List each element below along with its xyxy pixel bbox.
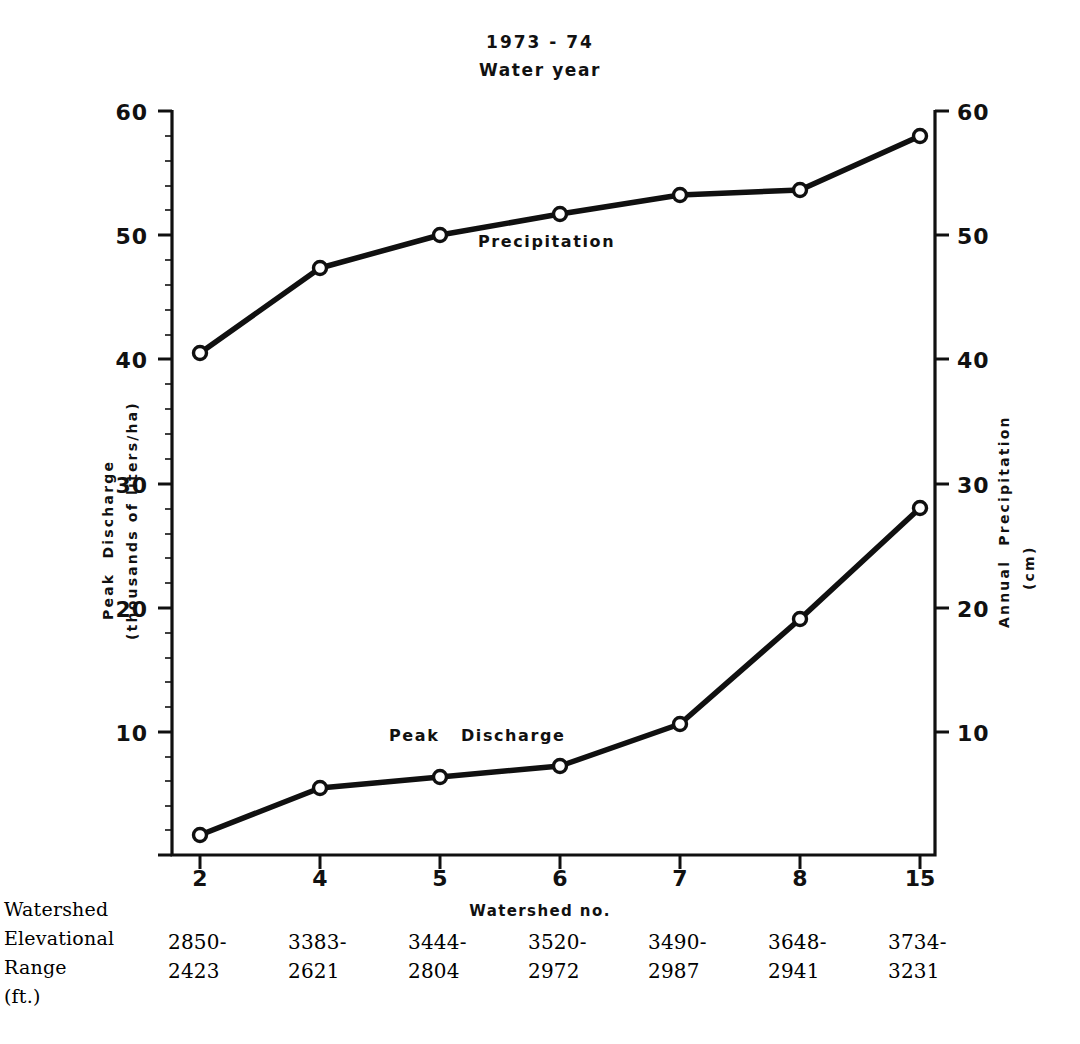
data-point [434, 229, 447, 242]
y-axis-left-title-line2: (thousands of liters/ha) [124, 401, 140, 640]
y-left-tick-60: 60 [88, 100, 148, 125]
elev-cell-ws7-top: 3490- [648, 927, 768, 957]
y-left-tick-40: 40 [88, 348, 148, 373]
elev-header-line4: (ft.) [4, 985, 41, 1007]
x-tick-5: 5 [410, 866, 470, 891]
data-point [554, 760, 567, 773]
x-tick-4: 4 [290, 866, 350, 891]
data-point [314, 782, 327, 795]
elev-cell-ws6-top: 3520- [528, 927, 648, 957]
series-label-precipitation: Precipitation [478, 232, 615, 251]
elev-cell-ws4-top: 3383- [288, 927, 408, 957]
elev-cell-ws8-top: 3648- [768, 927, 888, 957]
data-point [794, 184, 807, 197]
chart-figure: 1973 - 74 Water year [0, 0, 1080, 1044]
elev-cell-ws6-bottom: 2972 [528, 956, 648, 986]
elev-cell-ws2-top: 2850- [168, 927, 288, 957]
data-point [194, 829, 207, 842]
elev-cell-ws7-bottom: 2987 [648, 956, 768, 986]
y-right-tick-40: 40 [957, 348, 1017, 373]
x-tick-6: 6 [530, 866, 590, 891]
data-point [914, 502, 927, 515]
y-axis-left-title-line1: Peak Discharge [100, 460, 116, 620]
elev-header-line1: Watershed [4, 898, 108, 920]
elev-cell-ws2-bottom: 2423 [168, 956, 288, 986]
data-point [674, 718, 687, 731]
data-point [554, 208, 567, 221]
y-right-tick-60: 60 [957, 100, 1017, 125]
elev-cell-ws15-top: 3734- [888, 927, 1008, 957]
data-point [674, 189, 687, 202]
series-label-peak-discharge: Peak Discharge [389, 726, 565, 745]
elev-cell-ws15-bottom: 3231 [888, 956, 1008, 986]
elevation-range-table: Watershed Elevational Range (ft.) 2850- … [0, 898, 1080, 1044]
y-left-tick-50: 50 [88, 224, 148, 249]
elev-cell-ws4-bottom: 2621 [288, 956, 408, 986]
data-point [794, 613, 807, 626]
data-point [434, 771, 447, 784]
y-axis-left-ticks [158, 111, 172, 855]
y-axis-right-ticks [935, 111, 949, 732]
x-tick-15: 15 [890, 866, 950, 891]
elev-header-line2: Elevational [4, 927, 114, 949]
data-point [194, 347, 207, 360]
x-tick-2: 2 [170, 866, 230, 891]
series-peak-discharge [194, 502, 927, 842]
y-axis-right-title-line1: Annual Precipitation [996, 415, 1012, 628]
data-point [314, 262, 327, 275]
x-tick-8: 8 [770, 866, 830, 891]
data-point [914, 130, 927, 143]
elev-header-line3: Range [4, 956, 67, 978]
y-left-tick-10: 10 [88, 721, 148, 746]
elev-cell-ws5-bottom: 2804 [408, 956, 528, 986]
y-right-tick-10: 10 [957, 721, 1017, 746]
x-tick-7: 7 [650, 866, 710, 891]
y-right-tick-50: 50 [957, 224, 1017, 249]
y-axis-right-title-line2: (cm) [1021, 546, 1037, 590]
elev-cell-ws8-bottom: 2941 [768, 956, 888, 986]
elev-cell-ws5-top: 3444- [408, 927, 528, 957]
